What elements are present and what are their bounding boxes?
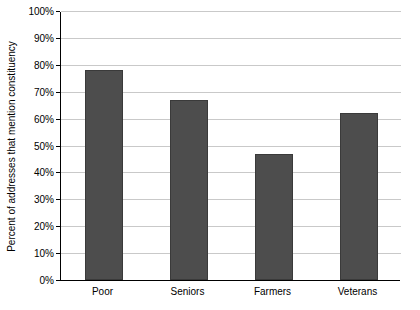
gridline	[61, 38, 401, 39]
bar-poor	[85, 70, 123, 280]
y-tick-label: 90%	[6, 34, 54, 44]
y-tick-label: 0%	[6, 276, 54, 286]
gridline	[61, 11, 401, 12]
y-tick-label: 20%	[6, 222, 54, 232]
y-tick-label: 70%	[6, 88, 54, 98]
x-tick-label: Seniors	[145, 286, 230, 298]
y-tick-label: 100%	[6, 7, 54, 17]
y-tick-label: 30%	[6, 195, 54, 205]
x-tick-label: Farmers	[230, 286, 315, 298]
y-tick-label: 10%	[6, 249, 54, 259]
x-tick-label: Poor	[60, 286, 145, 298]
bar-chart: Percent of addresses that mention consti…	[0, 0, 420, 310]
bar-farmers	[255, 154, 293, 280]
y-tick-label: 50%	[6, 142, 54, 152]
gridline	[61, 65, 401, 66]
y-tick-label: 60%	[6, 115, 54, 125]
y-tick-label: 80%	[6, 61, 54, 71]
bar-veterans	[340, 113, 378, 280]
y-tick-label: 40%	[6, 168, 54, 178]
plot-area	[60, 12, 400, 281]
gridline	[61, 280, 401, 281]
bar-seniors	[170, 100, 208, 280]
x-tick-label: Veterans	[315, 286, 400, 298]
